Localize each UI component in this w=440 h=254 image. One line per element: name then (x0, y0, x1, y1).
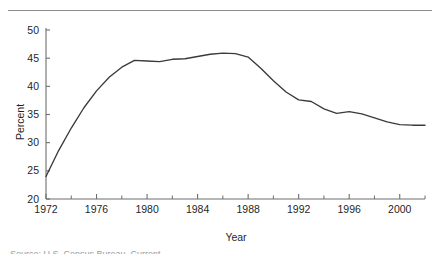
x-axis-title: Year (225, 231, 247, 243)
y-tick-label: 45 (27, 52, 39, 64)
y-tick-label: 25 (27, 164, 39, 176)
y-tick-label: 30 (27, 136, 39, 148)
source-caption-partial: Source: U.S. Census Bureau, Current (10, 249, 250, 254)
chart-canvas: 20253035404550 Percent 19721976198019841… (0, 0, 440, 254)
y-axis-title: Percent (14, 104, 26, 140)
y-tick-label: 40 (27, 80, 39, 92)
y-tick-label: 50 (27, 24, 39, 36)
x-tick-label: 2000 (388, 203, 412, 215)
x-tick-labels: 19721976198019841988199219962000 (34, 203, 411, 215)
y-tick-labels: 20253035404550 (27, 24, 39, 205)
x-tick-label: 1984 (186, 203, 210, 215)
y-axis: 20253035404550 Percent (14, 24, 50, 205)
x-tick-label: 1976 (85, 203, 109, 215)
x-tick-label: 1972 (34, 203, 58, 215)
x-axis: 19721976198019841988199219962000 Year (34, 194, 425, 243)
y-tick-label: 35 (27, 108, 39, 120)
line-chart-figure: 20253035404550 Percent 19721976198019841… (0, 0, 440, 254)
data-series-group (46, 53, 425, 176)
x-tick-label: 1988 (236, 203, 260, 215)
x-tick-label: 1992 (287, 203, 311, 215)
x-tick-label: 1996 (338, 203, 362, 215)
data-line-percent (46, 53, 425, 176)
x-tick-label: 1980 (135, 203, 159, 215)
